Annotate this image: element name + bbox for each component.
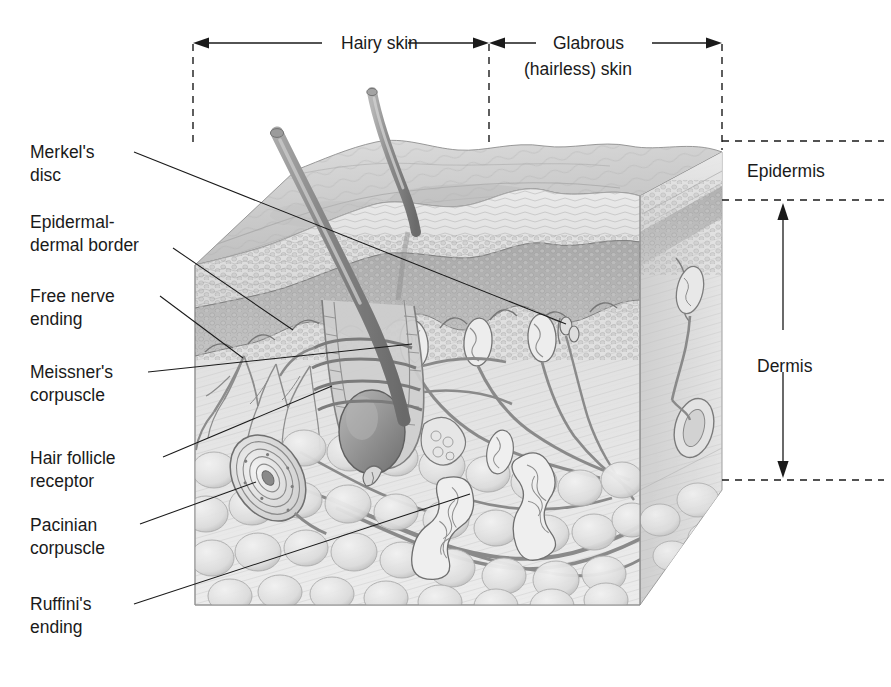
label-hair-follicle-receptor-line2: receptor — [30, 471, 94, 491]
label-ruffinis-ending-line2: ending — [30, 617, 83, 637]
label-ruffinis-ending-line1: Ruffini's — [30, 594, 92, 614]
label-epidermal-dermal-border-line2: dermal border — [30, 235, 139, 255]
label-meissners-corpuscle-line1: Meissner's — [30, 362, 113, 382]
depth-labels-group: Epidermis Dermis — [722, 141, 884, 480]
label-glabrous-skin: Glabrous — [553, 33, 624, 53]
label-epidermis: Epidermis — [747, 161, 825, 181]
label-hairy-skin: Hairy skin — [341, 33, 418, 53]
label-free-nerve-ending-line2: ending — [30, 309, 83, 329]
label-merkels-disc-line1: Merkel's — [30, 142, 95, 162]
skin-receptors-figure: Hairy skin Glabrous (hairless) skin — [0, 0, 891, 687]
dermis-arrow — [777, 203, 788, 478]
skin-right-side-face — [630, 140, 740, 620]
illustration-canvas: Hairy skin Glabrous (hairless) skin — [0, 0, 891, 687]
label-hair-follicle-receptor-line1: Hair follicle — [30, 448, 116, 468]
label-glabrous-skin-2: (hairless) skin — [524, 59, 632, 79]
label-pacinian-corpuscle-line2: corpuscle — [30, 538, 105, 558]
label-free-nerve-ending-line1: Free nerve — [30, 286, 115, 306]
label-epidermal-dermal-border-line1: Epidermal- — [30, 212, 115, 232]
label-meissners-corpuscle-line2: corpuscle — [30, 385, 105, 405]
label-pacinian-corpuscle-line1: Pacinian — [30, 515, 97, 535]
label-merkels-disc-line2: disc — [30, 165, 61, 185]
skin-block — [180, 88, 740, 623]
label-dermis: Dermis — [757, 356, 813, 376]
